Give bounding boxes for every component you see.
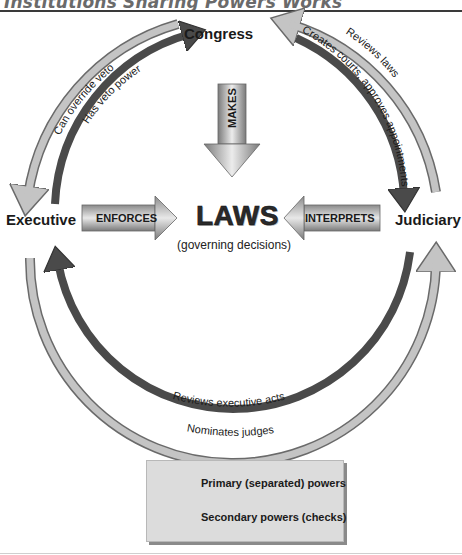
interprets-arrow: INTERPRETS — [284, 196, 380, 240]
legend-row-primary: Primary (separated) powers — [147, 461, 343, 491]
laws-subtitle: (governing decisions) — [177, 238, 291, 252]
enforces-label: ENFORCES — [96, 212, 157, 224]
bottom-divider — [0, 553, 462, 554]
arc-has-veto-power — [55, 34, 190, 204]
interprets-label: INTERPRETS — [305, 212, 375, 224]
legend-primary-label: Primary (separated) powers — [201, 477, 346, 489]
laws-title: LAWS — [196, 200, 279, 232]
node-congress: Congress — [184, 25, 253, 42]
enforces-arrow: ENFORCES — [82, 196, 177, 240]
arc-reviews-executive-acts — [58, 252, 410, 409]
legend-row-secondary: Secondary powers (checks) — [147, 497, 343, 527]
legend-box: Primary (separated) powers Secondary pow… — [146, 460, 344, 542]
node-judiciary: Judiciary — [395, 211, 461, 228]
label-nominates-judges: Nominates judges — [186, 421, 275, 437]
makes-arrow: MAKES — [204, 84, 260, 177]
legend-secondary-label: Secondary powers (checks) — [201, 511, 347, 523]
node-executive: Executive — [6, 211, 76, 228]
makes-label: MAKES — [226, 88, 238, 128]
